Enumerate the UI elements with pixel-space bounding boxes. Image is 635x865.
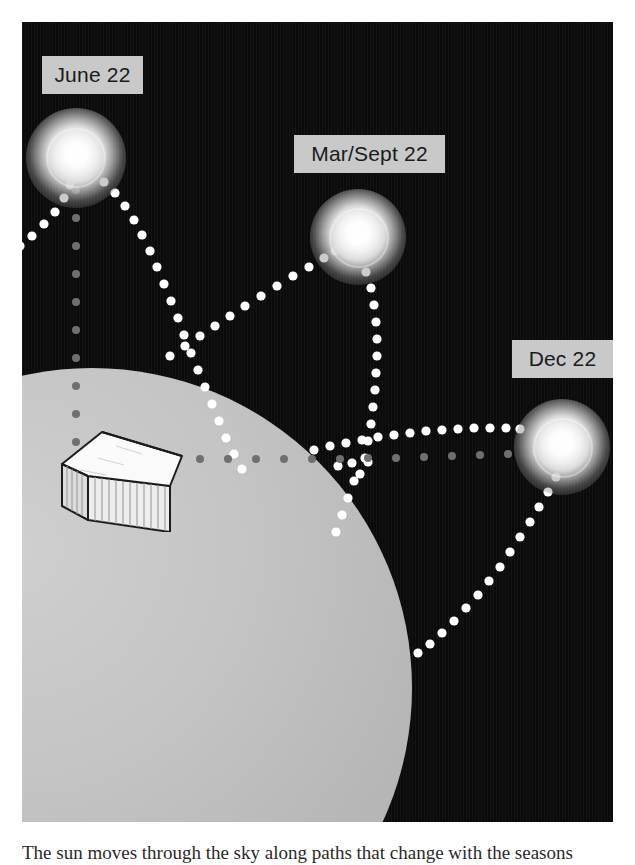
label-equinox: Mar/Sept 22 (294, 135, 445, 173)
figure-page: June 22 Mar/Sept 22 Dec 22 The sun moves… (0, 0, 635, 865)
sun-path-figure: June 22 Mar/Sept 22 Dec 22 (22, 22, 613, 822)
arc-equinox-right (355, 267, 381, 478)
label-december: Dec 22 (512, 340, 613, 378)
shed-building (58, 420, 198, 532)
arc-december-left (309, 423, 524, 454)
sun-june-ring (46, 128, 106, 188)
figure-caption: The sun moves through the sky along path… (22, 840, 622, 865)
label-june: June 22 (42, 56, 143, 94)
arc-december-right (413, 472, 560, 657)
arc-equinox-left (165, 246, 339, 360)
sun-december-ring (533, 418, 593, 478)
arc-crossing (331, 457, 372, 536)
sun-equinox-ring (329, 208, 389, 268)
